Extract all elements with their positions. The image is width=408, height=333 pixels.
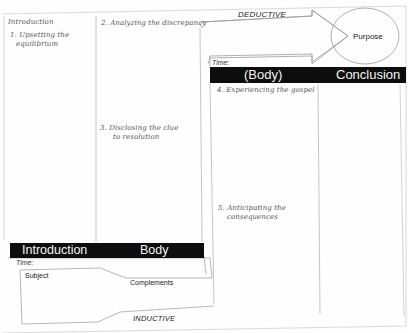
handwritten-step2: 2. Analyzing the discrepancy [101,19,206,28]
bottom-section-bar: Introduction Body [10,243,204,258]
handwritten-step4: 4. Experiencing the gospel [217,86,315,95]
bottom-time-label: Time: [16,259,33,266]
inductive-shape [8,258,214,324]
top-bar-conclusion-label: Conclusion [336,67,400,83]
bottom-bar-introduction-label: Introduction [22,243,87,258]
handwritten-step1-line2: equilibrium [16,40,58,49]
handwritten-step5-line1: 5. Anticipating the [218,204,286,213]
column-divider-2 [200,28,202,242]
conclusion-right-border [400,84,404,316]
top-bar-body-label: (Body) [244,67,282,83]
inductive-label: INDUCTIVE [133,314,175,323]
handwritten-step3-line2: to resolution [113,133,159,142]
diagram-lines [0,0,408,333]
bottom-bar-body-label: Body [140,243,169,258]
handwritten-step5-line2: consequences [227,213,278,222]
page-border [2,6,406,333]
handwritten-step1-line1: 1. Upsetting the [10,31,69,40]
body-column-left [210,84,214,304]
diagram-page: DEDUCTIVE Purpose Time: (Body) Conclusio… [0,0,408,333]
deductive-label: DEDUCTIVE [238,10,286,19]
purpose-label: Purpose [353,32,383,41]
top-time-label: Time: [212,59,229,66]
body-conclusion-divider [318,84,320,314]
complements-label: Complements [130,279,173,286]
handwritten-step3-line1: 3. Disclosing the clue [100,124,178,133]
top-section-bar: (Body) Conclusion [210,67,406,83]
subject-label: Subject [25,272,48,279]
handwritten-intro-heading: Introduction [8,18,54,27]
